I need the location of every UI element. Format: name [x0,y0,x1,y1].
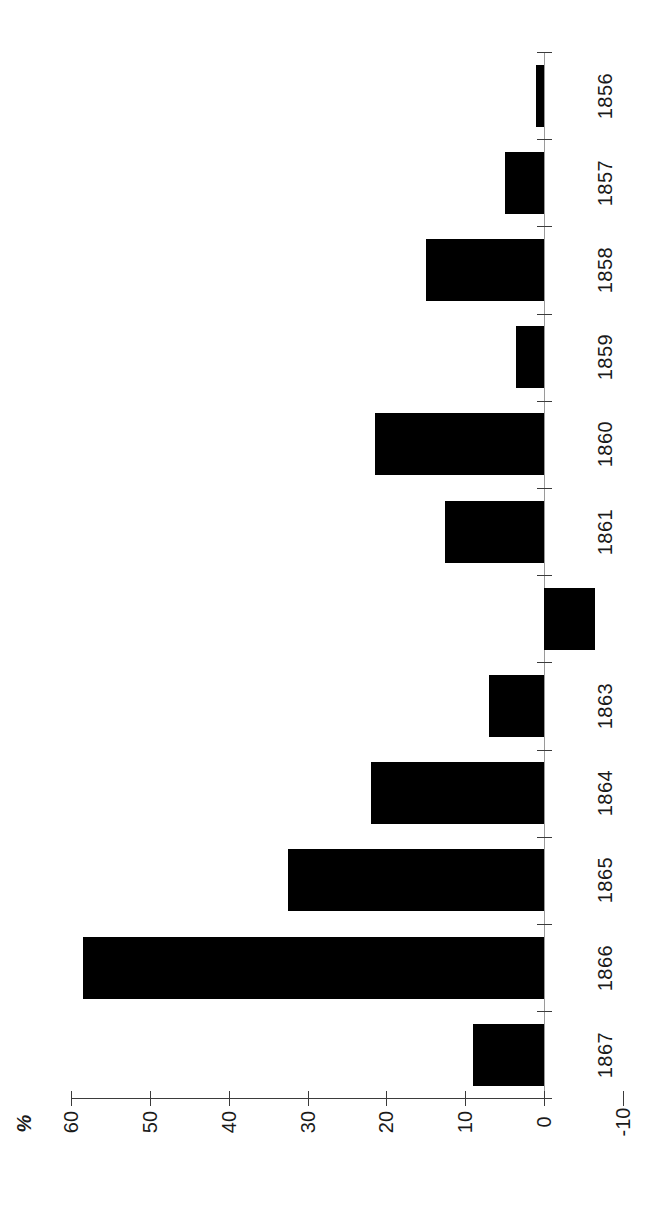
category-tick [537,488,552,489]
value-axis-tick-label: 0 [534,1092,554,1152]
category-tick [537,1011,552,1012]
category-tick [537,52,552,53]
value-axis-title: % [13,1094,36,1154]
category-tick [537,662,552,663]
bar [489,675,544,737]
category-label: 1856 [593,53,617,139]
category-tick [537,750,552,751]
bar [375,413,544,475]
bar [288,849,544,911]
category-label: 1866 [593,925,617,1011]
category-label: 1858 [593,227,617,313]
category-label: 1865 [593,837,617,923]
bar [445,501,544,563]
category-tick [537,924,552,925]
value-axis-tick-label: 10 [455,1092,475,1152]
value-axis-tick-label: 30 [298,1092,318,1152]
value-axis-tick-label: 60 [61,1092,81,1152]
category-label: 1859 [593,314,617,400]
category-label: 1867 [593,1012,617,1098]
category-tick [537,401,552,402]
category-tick [537,226,552,227]
value-axis-tick-label: 20 [376,1092,396,1152]
category-label: 1861 [593,489,617,575]
bar [505,152,544,214]
bar [83,937,544,999]
value-axis-tick-label: 40 [219,1092,239,1152]
category-tick [537,314,552,315]
bar-chart-figure: 1856185718581859186018611863186418651866… [0,0,666,1220]
category-label: 1857 [593,140,617,226]
bar [544,588,595,650]
bar [536,65,544,127]
category-tick [537,837,552,838]
plot-area: 1856185718581859186018611863186418651866… [0,0,666,1220]
category-label: 1860 [593,401,617,487]
category-tick [537,575,552,576]
bar [516,326,544,388]
category-label: 1863 [593,663,617,749]
category-tick [537,139,552,140]
value-axis-tick-label: 50 [140,1092,160,1152]
category-label: 1864 [593,750,617,836]
bar [426,239,544,301]
bar [371,762,544,824]
value-axis-tick-label: -10 [613,1092,633,1152]
bar [473,1024,544,1086]
